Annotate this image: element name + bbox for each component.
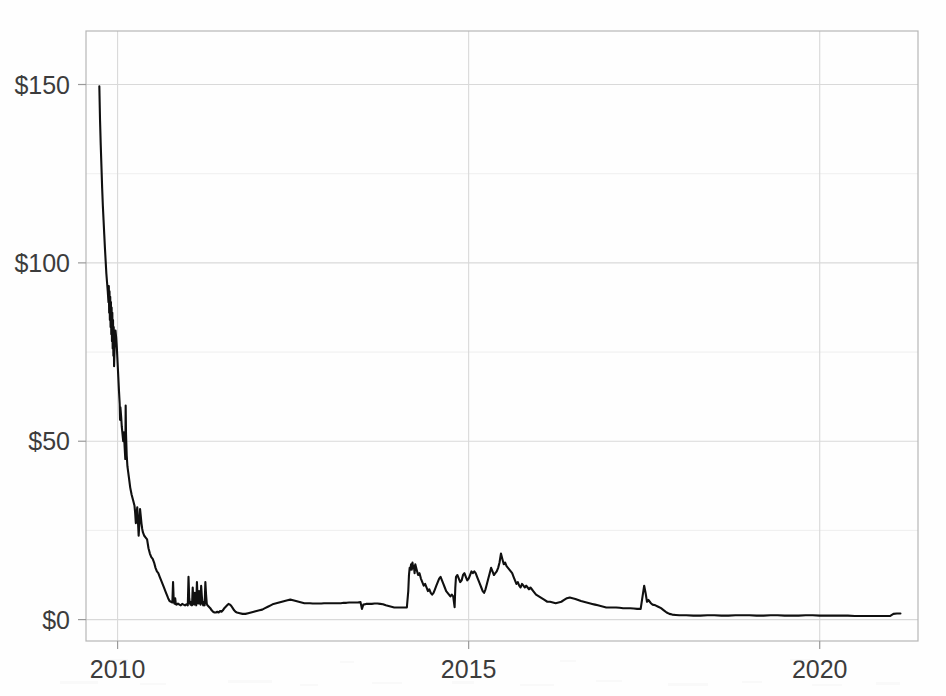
scan-artifact	[300, 684, 318, 686]
chart-figure: $0$50$100$150 201020152020	[0, 0, 946, 696]
x-tick-label: 2015	[441, 655, 497, 683]
scan-artifact	[452, 681, 474, 684]
y-tick-label: $150	[14, 71, 70, 99]
x-tick-marks	[118, 641, 820, 649]
scan-artifact	[340, 661, 354, 663]
x-axis-tick-labels: 201020152020	[90, 655, 848, 683]
y-tick-label: $50	[28, 427, 70, 455]
y-axis-tick-labels: $0$50$100$150	[14, 71, 70, 634]
scan-artifact	[520, 684, 554, 686]
y-tick-label: $0	[42, 606, 70, 634]
minor-gridlines	[86, 174, 918, 531]
plot-area-frame	[86, 31, 918, 641]
scan-artifact	[790, 659, 810, 661]
scan-artifact	[228, 680, 272, 683]
scan-artifact	[372, 682, 402, 684]
scan-artifact	[60, 681, 98, 684]
scan-artifact	[742, 681, 762, 683]
y-tick-label: $100	[14, 249, 70, 277]
scan-artifact	[876, 682, 900, 685]
line-chart-svg: $0$50$100$150 201020152020	[0, 0, 946, 696]
price-series-line	[99, 86, 900, 616]
scan-artifact	[812, 684, 842, 686]
y-tick-marks	[78, 85, 86, 620]
scan-artifact	[596, 680, 622, 682]
scan-artifact	[560, 660, 576, 662]
scan-artifact	[668, 683, 708, 686]
scan-artifact	[110, 659, 128, 661]
scan-artifact	[140, 683, 166, 685]
vertical-gridlines	[118, 31, 820, 641]
